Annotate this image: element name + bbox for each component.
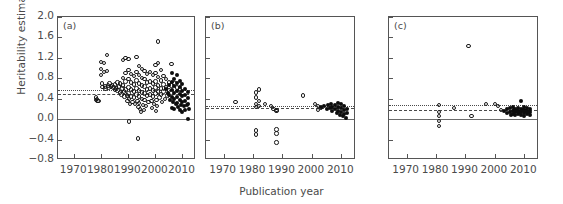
x-tick-mark xyxy=(182,154,183,158)
panel-label: (b) xyxy=(211,20,224,31)
data-point-filled xyxy=(170,106,174,110)
x-tick-label: 2010 xyxy=(327,163,354,175)
x-tick-label: 1990 xyxy=(268,163,295,175)
panel-label: (a) xyxy=(63,20,76,31)
y-tick-label: 0.8 xyxy=(20,70,54,82)
x-tick-label: 1990 xyxy=(114,163,141,175)
data-point-open xyxy=(274,109,278,113)
y-tick-mark xyxy=(206,78,210,79)
data-point-filled xyxy=(180,82,184,86)
data-point-open xyxy=(169,62,173,66)
data-point-open xyxy=(156,61,160,65)
data-point-filled xyxy=(344,116,348,120)
data-point-open xyxy=(233,100,237,104)
x-tick-label: 1970 xyxy=(209,163,236,175)
y-tick-mark xyxy=(206,140,210,141)
data-point-filled xyxy=(186,102,190,106)
y-tick-label: 2.0 xyxy=(20,9,54,21)
x-tick-mark xyxy=(312,154,313,158)
data-point-open xyxy=(154,109,158,113)
panel-b: (b) xyxy=(205,16,355,159)
data-point-filled xyxy=(345,111,349,115)
y-tick-mark xyxy=(389,17,393,18)
data-point-open xyxy=(469,114,473,118)
data-point-open xyxy=(254,132,258,136)
y-tick-mark xyxy=(206,99,210,100)
y-tick-mark xyxy=(389,78,393,79)
data-point-open xyxy=(142,108,146,112)
y-tick-label: −0.8 xyxy=(20,152,54,164)
data-point-open xyxy=(127,119,131,123)
data-point-open xyxy=(105,53,109,57)
y-tick-mark xyxy=(58,58,62,59)
data-point-open xyxy=(136,136,140,140)
data-point-open xyxy=(274,140,278,144)
y-tick-mark xyxy=(206,17,210,18)
data-point-open xyxy=(156,39,160,43)
y-tick-label: 0.0 xyxy=(20,111,54,123)
x-tick-mark xyxy=(407,154,408,158)
x-tick-label: 2000 xyxy=(481,163,508,175)
x-tick-mark xyxy=(282,154,283,158)
reference-line-solid xyxy=(206,119,354,120)
x-tick-mark xyxy=(341,154,342,158)
y-tick-mark xyxy=(206,58,210,59)
y-tick-label: 1.6 xyxy=(20,29,54,41)
reference-line-solid xyxy=(389,119,537,120)
reference-line-solid xyxy=(58,119,194,120)
x-tick-mark xyxy=(128,154,129,158)
data-point-filled xyxy=(164,87,168,91)
panel-label: (c) xyxy=(394,20,407,31)
x-tick-label: 2000 xyxy=(141,163,168,175)
data-point-filled xyxy=(175,73,179,77)
x-tick-mark xyxy=(101,154,102,158)
data-point-open xyxy=(437,103,441,107)
y-axis-tick-labels: −0.8−0.40.00.40.81.21.62.0 xyxy=(16,0,54,204)
y-tick-mark xyxy=(58,99,62,100)
y-tick-mark xyxy=(206,37,210,38)
y-tick-mark xyxy=(58,78,62,79)
data-point-open xyxy=(452,106,456,110)
data-point-open xyxy=(437,114,441,118)
y-tick-mark xyxy=(389,99,393,100)
data-point-open xyxy=(263,102,267,106)
y-tick-mark xyxy=(389,37,393,38)
y-tick-label: −0.4 xyxy=(20,132,54,144)
x-tick-mark xyxy=(524,154,525,158)
data-point-filled xyxy=(186,117,190,121)
x-tick-label: 1980 xyxy=(422,163,449,175)
data-point-open xyxy=(159,68,163,72)
data-point-open xyxy=(466,44,470,48)
data-point-open xyxy=(126,57,130,61)
x-tick-mark xyxy=(253,154,254,158)
data-point-filled xyxy=(170,71,174,75)
x-tick-label: 1990 xyxy=(451,163,478,175)
data-point-open xyxy=(155,104,159,108)
data-point-open xyxy=(257,87,261,91)
y-tick-mark xyxy=(389,140,393,141)
x-tick-label: 2010 xyxy=(510,163,537,175)
y-tick-label: 1.2 xyxy=(20,50,54,62)
x-tick-label: 1970 xyxy=(392,163,419,175)
data-point-filled xyxy=(528,113,532,117)
y-tick-mark xyxy=(58,17,62,18)
data-point-open xyxy=(102,61,106,65)
data-point-open xyxy=(144,104,148,108)
data-point-open xyxy=(257,104,261,108)
data-point-open xyxy=(437,124,441,128)
x-tick-mark xyxy=(436,154,437,158)
data-point-filled xyxy=(519,99,523,103)
data-point-open xyxy=(134,55,138,59)
panel-a: (a) xyxy=(57,16,195,159)
data-point-open xyxy=(437,119,441,123)
y-tick-mark xyxy=(389,58,393,59)
x-axis-label: Publication year xyxy=(0,185,563,197)
data-point-open xyxy=(105,69,109,73)
figure-root: Heritability estimate −0.8−0.40.00.40.81… xyxy=(0,0,563,204)
x-tick-label: 1980 xyxy=(239,163,266,175)
x-tick-mark xyxy=(74,154,75,158)
x-tick-mark xyxy=(155,154,156,158)
x-tick-mark xyxy=(495,154,496,158)
x-tick-mark xyxy=(465,154,466,158)
data-point-open xyxy=(96,99,100,103)
